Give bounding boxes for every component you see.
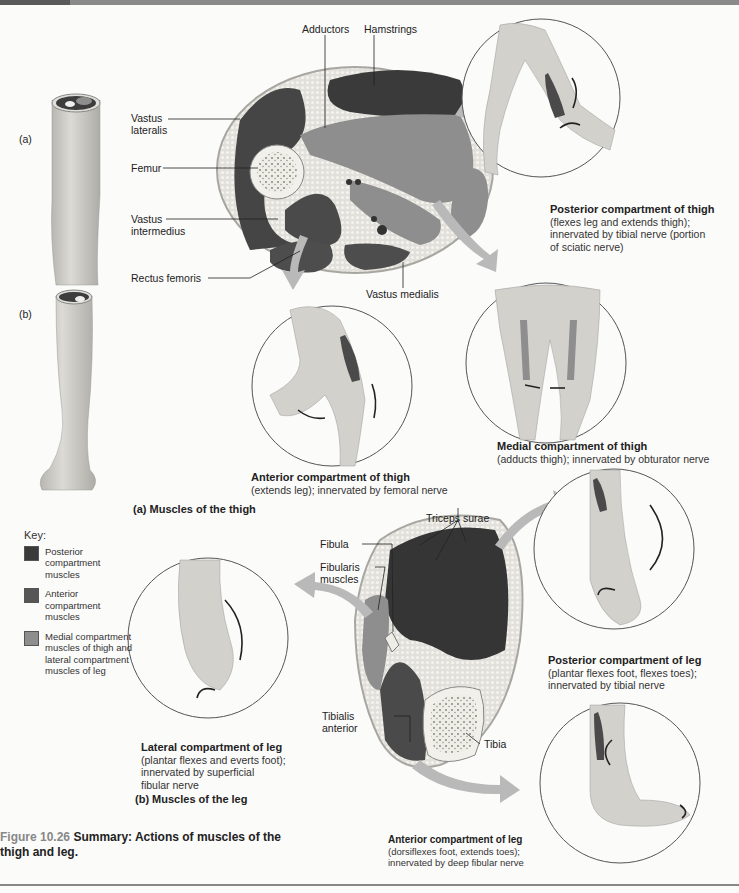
thigh-overview-illustration [52,94,101,285]
caption-title: Posterior compartment of thigh [550,203,735,216]
label-tibia: Tibia [484,738,506,750]
figure-number: Figure 10.26 [0,830,70,844]
leg-overview-illustration [40,290,95,490]
label-adductors: Adductors [302,23,349,35]
swatch-medial-lateral [24,631,39,646]
label-vastus-medialis: Vastus medialis [366,288,439,300]
caption-medial-thigh: Medial compartment of thigh (adducts thi… [497,440,737,465]
section-title-leg: (b) Muscles of the leg [135,793,247,805]
key-title: Key: [24,530,134,542]
leg-cross-section [355,516,523,768]
label-triceps-surae: Triceps surae [426,512,489,524]
label-fibularis-1: Fibularis [320,561,360,573]
label-vastus-intermedius-1: Vastus [131,213,162,225]
panel-label-b: (b) [19,308,32,320]
caption-lateral-leg: Lateral compartment of leg (plantar flex… [141,741,341,791]
key-item-posterior: Posterior compartment muscles [24,546,134,581]
label-tibialis-1: Tibialis [322,710,354,722]
key-item-anterior: Anterior compartment muscles [24,588,134,623]
thigh-cross-section [217,67,493,273]
label-hamstrings: Hamstrings [364,23,417,35]
label-rectus-femoris: Rectus femoris [131,272,201,284]
key-item-medial-lateral: Medial compartment muscles of thigh and … [24,631,134,677]
caption-anterior-thigh: Anterior compartment of thigh (extends l… [251,471,481,496]
figure-caption: Figure 10.26 Summary: Actions of muscles… [0,830,300,860]
label-tibialis-2: anterior [322,722,358,734]
label-fibularis-2: muscles [320,573,359,585]
label-fibula: Fibula [320,538,349,550]
section-title-thigh: (a) Muscles of the thigh [133,503,256,515]
label-femur: Femur [131,162,161,174]
label-vastus-intermedius-2: intermedius [131,225,185,237]
bottom-rule [0,884,739,886]
panel-label-a: (a) [19,133,32,145]
caption-anterior-leg: Anterior compartment of leg (dorsiflexes… [388,834,558,869]
caption-posterior-leg: Posterior compartment of leg (plantar fl… [548,654,738,692]
color-key: Key: Posterior compartment muscles Anter… [24,530,134,685]
label-vastus-lateralis-1: Vastus [131,112,162,124]
label-vastus-lateralis-2: lateralis [131,124,167,136]
swatch-posterior [24,546,39,561]
swatch-anterior [24,588,39,603]
caption-posterior-thigh: Posterior compartment of thigh (flexes l… [550,203,735,253]
